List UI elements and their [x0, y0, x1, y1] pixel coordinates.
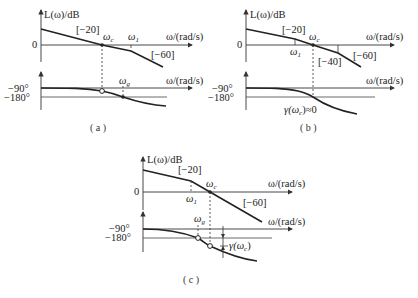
slope-label-40: [−40] — [318, 56, 341, 67]
magnitude-plot-c: L(ω)/dB ω/(rad/s) 0 [−20] [−60] ω1 ωc ω/… — [134, 154, 306, 228]
zero-label: 0 — [134, 186, 139, 197]
magnitude-curve — [143, 170, 262, 222]
omega-g-label: ωg — [119, 75, 130, 88]
gamma-annotation: γ(ωc) — [229, 240, 251, 253]
x-axis-label: ω/(rad/s) — [366, 31, 404, 43]
omega-c-label: ωc — [206, 178, 217, 191]
phase-plot-a: ω/(rad/s) −90° −180° ωg — [4, 72, 204, 110]
slope-label-20: [−20] — [76, 24, 99, 35]
bode-diagrams: L(ω)/dB ω/(rad/s) 0 [−20] [−60] ωc ω1 ω/… — [0, 0, 418, 298]
phase-plot-b: ω/(rad/s) −90° −180° γ(ωc)≈0 — [208, 72, 404, 117]
omega-1-label: ω1 — [128, 31, 139, 44]
omega-c-label: ωc — [103, 31, 114, 44]
minus-180-label: −180° — [105, 232, 131, 243]
caption-b: ( b ) — [300, 122, 317, 134]
caption-c: ( c ) — [183, 274, 199, 286]
phase-plot-c: −90° −180° ωg γ(ωc) — [105, 212, 292, 261]
gamma-arrow-down — [221, 234, 225, 238]
omega-g-circle — [196, 236, 201, 241]
magnitude-plot-b: L(ω)/dB ω/(rad/s) 0 [−20] [−40] [−60] ω1… — [237, 9, 404, 67]
omega-1-label: ω1 — [290, 46, 301, 59]
y-axis-label: L(ω)/dB — [250, 9, 286, 21]
magnitude-plot-a: L(ω)/dB ω/(rad/s) 0 [−20] [−60] ωc ω1 — [32, 9, 204, 67]
minus-180-label: −180° — [4, 92, 30, 103]
x-axis-label: ω/(rad/s) — [268, 178, 306, 190]
omega-1-label: ω1 — [186, 193, 197, 206]
phase-at-crossover-circle — [100, 89, 105, 94]
diagram-b: L(ω)/dB ω/(rad/s) 0 [−20] [−40] [−60] ω1… — [208, 9, 404, 134]
slope-label-20: [−20] — [178, 164, 201, 175]
diagram-a: L(ω)/dB ω/(rad/s) 0 [−20] [−60] ωc ω1 ω/… — [4, 9, 204, 134]
slope-label-60: [−60] — [353, 50, 376, 61]
zero-label: 0 — [32, 39, 37, 50]
slope-label-20: [−20] — [282, 24, 305, 35]
y-axis-label: L(ω)/dB — [44, 9, 80, 21]
phase-x-axis-label: ω/(rad/s) — [366, 75, 404, 87]
minus-180-label: −180° — [208, 92, 234, 103]
slope-label-60: [−60] — [151, 49, 174, 60]
slope-label-60: [−60] — [243, 197, 266, 208]
omega-c-label: ωc — [309, 31, 320, 44]
phase-x-axis-label: ω/(rad/s) — [268, 216, 306, 228]
caption-a: ( a ) — [90, 122, 106, 134]
diagram-c: L(ω)/dB ω/(rad/s) 0 [−20] [−60] ω1 ωc ω/… — [105, 154, 306, 286]
gamma-arrow-up — [221, 246, 225, 250]
phase-x-axis-label: ω/(rad/s) — [166, 75, 204, 87]
zero-label: 0 — [237, 39, 242, 50]
gamma-annotation: γ(ωc)≈0 — [284, 104, 317, 117]
phase-at-crossover-circle — [208, 244, 213, 249]
x-axis-label: ω/(rad/s) — [166, 31, 204, 43]
omega-g-label: ωg — [194, 213, 205, 226]
